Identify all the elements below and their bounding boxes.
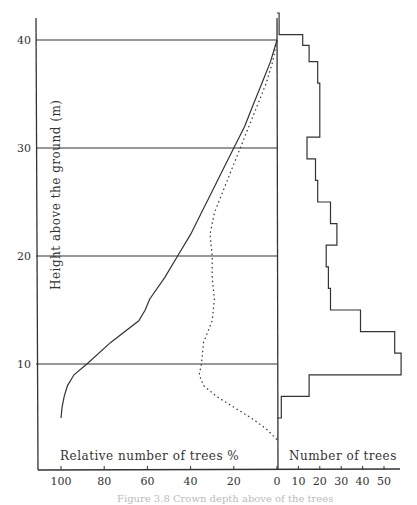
left-x-tick-20: 20: [227, 475, 241, 488]
chart-figure: 10203040 100806040200 1020304050 Height …: [0, 0, 417, 505]
left-x-tick-40: 40: [184, 475, 198, 488]
right-x-tick-20: 20: [313, 475, 327, 488]
y-tick-labels: 10203040: [17, 34, 31, 371]
dotted-curve: [199, 40, 277, 440]
right-x-tick-50: 50: [377, 475, 391, 488]
horizontal-gridlines: [36, 40, 277, 364]
y-axis-title: Height above the ground (m): [49, 99, 63, 290]
y-tick-10: 10: [17, 358, 31, 371]
left-x-tick-80: 80: [97, 475, 111, 488]
y-tick-40: 40: [17, 34, 31, 47]
left-y-axis: [36, 18, 38, 470]
divider-axis: [277, 18, 278, 470]
left-x-tick-0: 0: [274, 475, 281, 488]
histogram-steps: [277, 13, 401, 418]
right-x-axis-title: Number of trees: [289, 449, 397, 463]
left-x-tick-100: 100: [51, 475, 72, 488]
left-x-tick-60: 60: [140, 475, 154, 488]
right-x-tick-30: 30: [334, 475, 348, 488]
bottom-x-axis: [38, 469, 400, 470]
left-x-axis-title: Relative number of trees %: [60, 449, 239, 463]
figure-caption: Figure 3.8 Crown depth above of the tree…: [117, 493, 333, 504]
right-x-tick-40: 40: [356, 475, 370, 488]
right-x-tick-10: 10: [291, 475, 305, 488]
solid-curve: [61, 40, 277, 418]
y-tick-20: 20: [17, 250, 31, 263]
axes: [36, 18, 400, 470]
y-tick-30: 30: [17, 142, 31, 155]
